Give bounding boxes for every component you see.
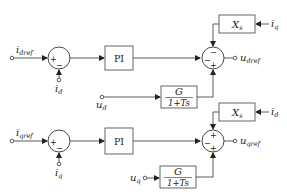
- sign-top: +: [210, 131, 217, 140]
- sign-bottom: +: [210, 61, 217, 70]
- uq-terminal: [143, 176, 147, 180]
- sign-minus: −: [56, 144, 63, 153]
- sign-minus: −: [56, 61, 63, 70]
- udref-label: udref: [240, 52, 262, 65]
- ud-label: ud: [96, 99, 107, 112]
- pi-label: PI: [114, 53, 124, 64]
- sign-bottom: +: [210, 144, 217, 153]
- feedback-terminal: [57, 78, 61, 82]
- iq-label: iq: [55, 167, 62, 180]
- q-axis-loop: iqref + − iq PI Xs id + − + uqref uq G 1…: [10, 103, 278, 188]
- iqref-label: iqref: [16, 127, 34, 140]
- iq-decouple-label: iq: [271, 18, 278, 31]
- input-terminal: [10, 56, 14, 60]
- sign-top: −: [210, 48, 217, 57]
- idref-label: idref: [16, 44, 34, 57]
- feedback-terminal: [57, 162, 61, 166]
- id-label: id: [55, 83, 62, 96]
- output-terminal: [233, 56, 237, 60]
- d-axis-loop: idref + − id PI Xs iq − − + udref ud: [10, 15, 278, 112]
- uq-label: uq: [130, 172, 141, 185]
- pi-label: PI: [114, 136, 124, 147]
- uqref-label: uqref: [240, 135, 262, 148]
- id-decouple-label: id: [271, 106, 278, 119]
- output-terminal: [233, 139, 237, 143]
- input-terminal: [10, 139, 14, 143]
- filter-denominator: 1+Ts: [167, 178, 190, 188]
- filter-numerator: G: [175, 86, 183, 97]
- filter-numerator: G: [174, 166, 182, 177]
- filter-denominator: 1+Ts: [168, 98, 191, 108]
- control-block-diagram: idref + − id PI Xs iq − − + udref ud: [0, 0, 287, 195]
